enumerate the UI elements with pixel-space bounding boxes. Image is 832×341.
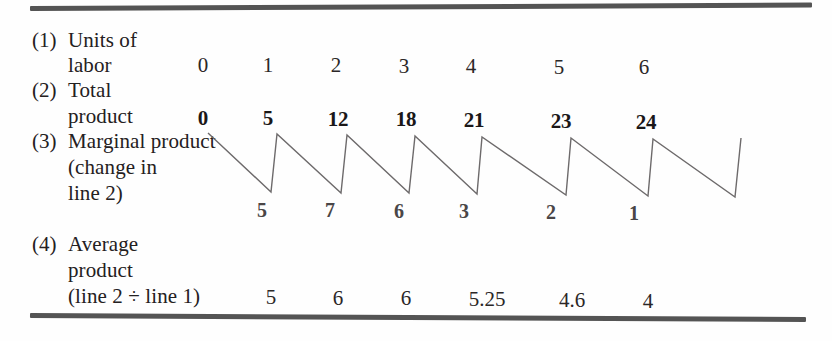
row-1-label-line-1: Units of bbox=[68, 28, 137, 53]
units-of-labor-cell-5: 5 bbox=[554, 55, 565, 79]
marginal-product-cell-3: 3 bbox=[459, 199, 469, 223]
total-product-cell-3: 18 bbox=[396, 107, 417, 131]
row-2-label-line-1: Total bbox=[68, 78, 111, 103]
units-of-labor-cell-1: 1 bbox=[263, 53, 274, 77]
row-2-label-line-2: product bbox=[68, 104, 133, 129]
total-product-cell-1: 5 bbox=[263, 106, 273, 130]
marginal-product-cell-2: 6 bbox=[394, 199, 404, 223]
average-product-cell-1: 5 bbox=[266, 285, 277, 309]
total-product-cell-4: 21 bbox=[464, 108, 485, 132]
row-3-label-line-2: (change in bbox=[68, 155, 157, 180]
average-product-cell-4: 5.25 bbox=[469, 287, 506, 311]
marginal-product-cell-4: 2 bbox=[546, 200, 556, 224]
units-of-labor-cell-6: 6 bbox=[639, 55, 650, 79]
average-product-cell-2: 6 bbox=[333, 286, 344, 310]
units-of-labor-cell-4: 4 bbox=[466, 54, 477, 78]
row-4-label-line-1: Average bbox=[68, 232, 138, 257]
row-4-label-line-2: product bbox=[68, 258, 133, 283]
marginal-product-cell-1: 7 bbox=[325, 198, 335, 222]
row-3-label-line-3: line 2) bbox=[68, 181, 123, 206]
row-1-number: (1) bbox=[32, 28, 57, 53]
units-of-labor-cell-0: 0 bbox=[198, 53, 209, 77]
average-product-cell-3: 6 bbox=[401, 286, 412, 310]
units-of-labor-cell-2: 2 bbox=[331, 53, 342, 77]
marginal-product-cell-0: 5 bbox=[257, 198, 267, 222]
total-product-cell-6: 24 bbox=[636, 110, 657, 134]
table-top-rule bbox=[30, 3, 812, 11]
average-product-cell-5: 4.6 bbox=[559, 288, 585, 312]
average-product-cell-6: 4 bbox=[643, 289, 654, 313]
row-2-number: (2) bbox=[32, 78, 57, 103]
zigzag-polyline bbox=[208, 133, 741, 197]
row-4-number: (4) bbox=[32, 232, 57, 257]
row-3-label-line-1: Marginal product bbox=[68, 129, 216, 154]
row-3-number: (3) bbox=[32, 129, 57, 154]
marginal-product-cell-5: 1 bbox=[629, 201, 639, 225]
production-table: (1) Units of labor 0 1 2 3 4 5 6 (2) Tot… bbox=[0, 0, 832, 341]
row-4-label-line-3: (line 2 ÷ line 1) bbox=[68, 284, 200, 309]
total-product-cell-5: 23 bbox=[551, 109, 572, 133]
row-1-label-line-2: labor bbox=[68, 53, 112, 78]
total-product-cell-0: 0 bbox=[198, 106, 208, 130]
units-of-labor-cell-3: 3 bbox=[399, 54, 410, 78]
total-product-cell-2: 12 bbox=[328, 107, 349, 131]
table-bottom-rule bbox=[30, 313, 806, 322]
